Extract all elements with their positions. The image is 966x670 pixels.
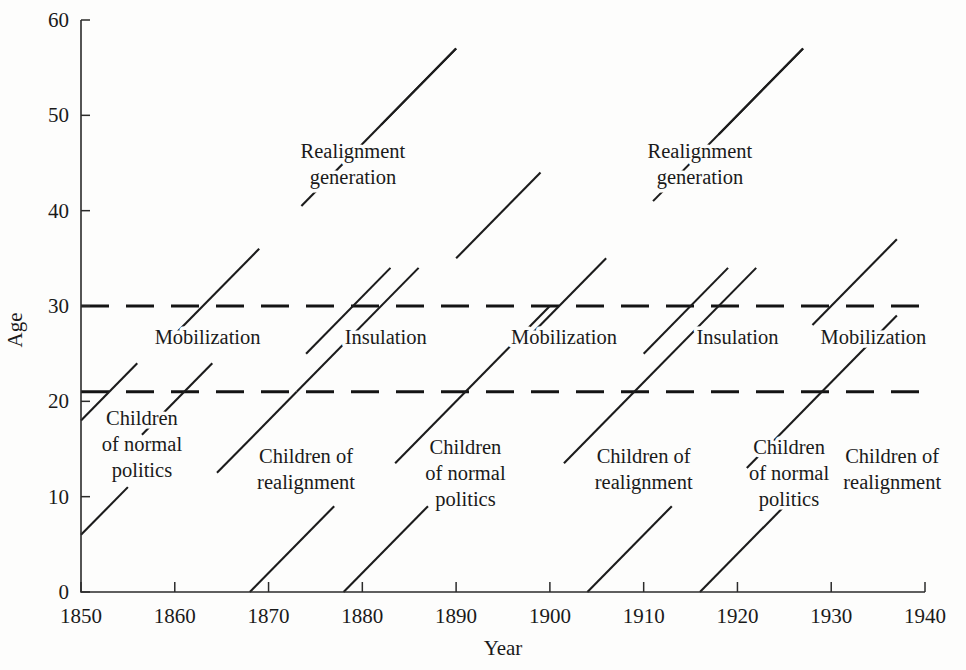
- annotation-mobilization-2: Mobilization: [511, 326, 617, 348]
- annotation-children-realignment-1: realignment: [257, 471, 355, 494]
- cohort-line: [700, 506, 784, 592]
- cohort-line: [719, 49, 803, 135]
- annotation-children-realignment-1: Children of: [259, 445, 353, 467]
- y-axis-tick-label: 0: [59, 580, 70, 604]
- x-axis-tick-label: 1920: [716, 604, 758, 628]
- cohort-line: [250, 506, 334, 592]
- y-axis-tick-label: 30: [48, 294, 69, 318]
- annotation-insulation-1: Insulation: [345, 326, 427, 348]
- x-axis-tick-label: 1870: [248, 604, 290, 628]
- cohort-generation-chart: 0102030405060185018601870188018901900191…: [0, 0, 966, 670]
- cohort-line: [456, 173, 540, 259]
- annotation-realignment-generation-2: generation: [657, 166, 744, 189]
- annotation-children-realignment-2: realignment: [595, 471, 693, 494]
- y-axis-tick-label: 10: [48, 485, 69, 509]
- plot-annotations-group: RealignmentRealignmentgenerationgenerati…: [102, 140, 942, 511]
- cohort-line: [81, 487, 128, 535]
- y-axis-tick-label: 50: [48, 103, 69, 127]
- annotation-realignment-generation-1: Realignment: [301, 140, 406, 163]
- cohort-line: [531, 258, 606, 334]
- annotation-children-realignment-3: Children of: [845, 445, 939, 467]
- annotation-children-normal-politics-1: Children: [106, 407, 178, 429]
- cohort-line: [344, 506, 428, 592]
- annotation-children-normal-politics-2: politics: [435, 488, 495, 511]
- annotation-realignment-generation-2: Realignment: [648, 140, 753, 163]
- x-axis-tick-label: 1910: [623, 604, 665, 628]
- x-axis-tick-label: 1890: [435, 604, 477, 628]
- x-axis-tick-label: 1930: [810, 604, 852, 628]
- annotation-children-normal-politics-3: Children: [753, 436, 825, 458]
- annotation-children-normal-politics-1: politics: [112, 459, 172, 482]
- x-axis-tick-label: 1900: [529, 604, 571, 628]
- y-axis-title: Age: [3, 313, 27, 348]
- annotation-children-realignment-2: Children of: [597, 445, 691, 467]
- cohort-line: [381, 49, 456, 125]
- cohort-line: [465, 306, 549, 392]
- x-axis-title: Year: [484, 636, 523, 660]
- annotation-realignment-generation-1: generation: [310, 166, 397, 189]
- cohort-lines-group: [81, 49, 897, 592]
- axis-tick-labels-group: 0102030405060185018601870188018901900191…: [48, 8, 946, 628]
- annotation-mobilization-3: Mobilization: [820, 326, 926, 348]
- annotation-children-normal-politics-2: of normal: [425, 462, 506, 484]
- annotation-children-normal-politics-3: of normal: [749, 462, 830, 484]
- x-axis-tick-label: 1860: [154, 604, 196, 628]
- x-axis-tick-label: 1850: [60, 604, 102, 628]
- annotation-children-normal-politics-2: Children: [430, 436, 502, 458]
- annotation-children-normal-politics-3: politics: [759, 488, 819, 511]
- annotation-insulation-2: Insulation: [696, 326, 778, 348]
- annotation-mobilization-1: Mobilization: [155, 326, 261, 348]
- y-axis-tick-label: 60: [48, 8, 69, 32]
- x-axis-tick-label: 1940: [904, 604, 946, 628]
- annotation-children-normal-politics-1: of normal: [102, 433, 183, 455]
- y-axis-tick-label: 20: [48, 389, 69, 413]
- cohort-line: [812, 239, 896, 325]
- chart-canvas: 0102030405060185018601870188018901900191…: [0, 0, 966, 670]
- cohort-line: [175, 249, 259, 335]
- reference-lines-group: [81, 306, 925, 392]
- cohort-line: [587, 506, 671, 592]
- y-axis-tick-label: 40: [48, 199, 69, 223]
- x-axis-tick-label: 1880: [341, 604, 383, 628]
- annotation-children-realignment-3: realignment: [843, 471, 941, 494]
